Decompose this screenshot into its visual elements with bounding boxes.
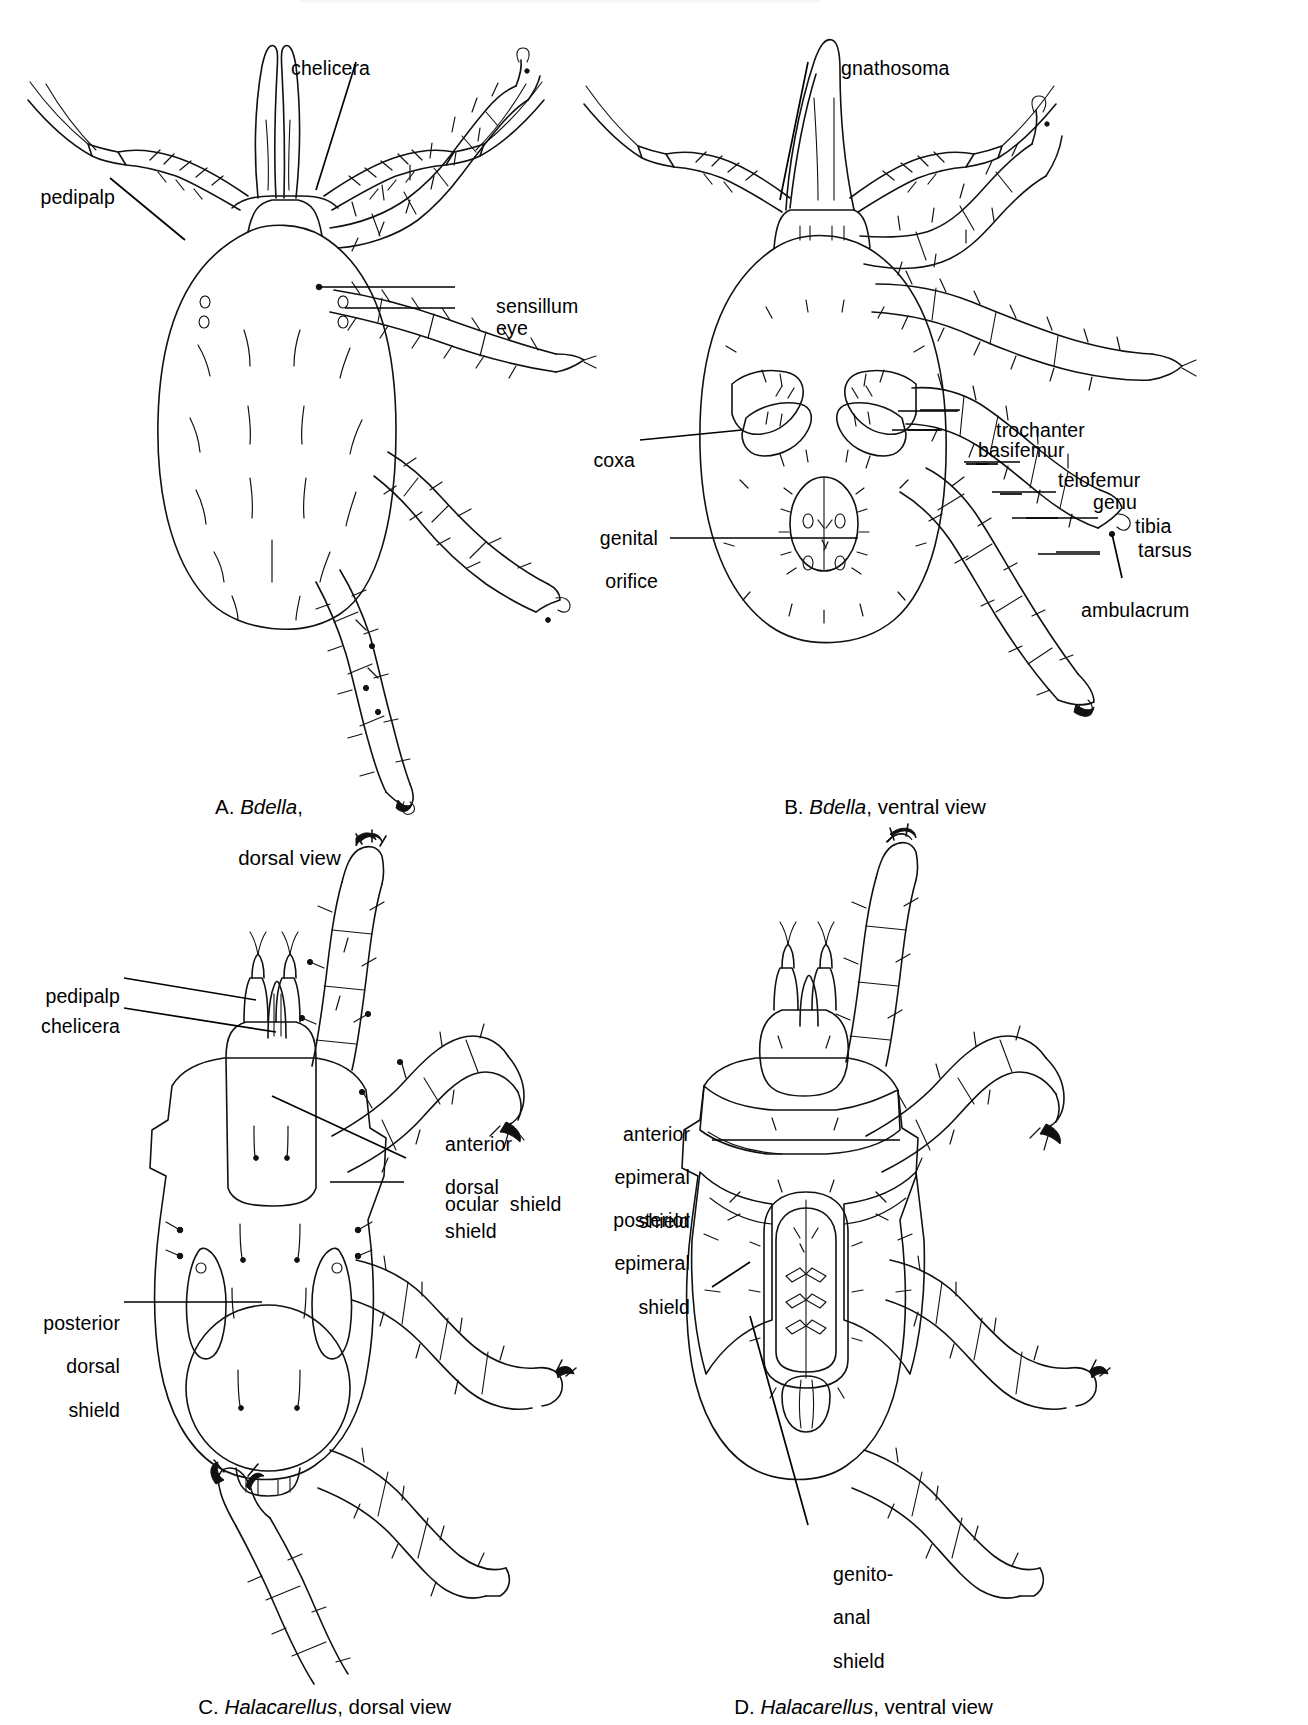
label-ocular-c-text: ocular shield <box>445 1193 561 1215</box>
label-chelicera-a: chelicera <box>200 36 370 101</box>
caption-c-view: , dorsal view <box>337 1695 451 1718</box>
label-posterior-epimeral-shield-d: posterior epimeral shield <box>550 1188 690 1341</box>
label-eye-a-text: eye <box>496 317 528 339</box>
label-ocular-shield-c: ocular shield <box>412 1172 561 1237</box>
label-genital-b-line1: genital <box>600 527 658 549</box>
label-pes-d-line3: shield <box>638 1296 690 1318</box>
caption-d-view: , ventral view <box>873 1695 993 1718</box>
label-pedipalp-a-text: pedipalp <box>40 186 115 208</box>
label-pes-d-line2: epimeral <box>614 1252 690 1274</box>
label-tarsus-b-text: tarsus <box>1138 539 1192 561</box>
caption-panel-c: C. Halacarellus, dorsal view <box>164 1670 451 1725</box>
label-aes-d-line2: epimeral <box>614 1166 690 1188</box>
label-genital-b-line2: orifice <box>605 570 658 592</box>
panel-a-leaders <box>0 0 654 820</box>
caption-c-letter: C. <box>198 1695 224 1718</box>
label-pds-c-line2: dorsal <box>66 1355 120 1377</box>
label-tarsus-b: tarsus <box>1105 518 1192 583</box>
label-genital-orifice-b: genital orifice <box>530 506 658 615</box>
figure-plate: chelicera pedipalp sensillum eye A. Bdel… <box>0 0 1308 1725</box>
label-gnathosoma-b: gnathosoma <box>808 36 949 101</box>
label-pds-c-line3: shield <box>68 1399 120 1421</box>
label-coxa-b: coxa <box>540 428 635 493</box>
label-gas-d-line2: anal <box>833 1606 870 1628</box>
label-ambulacrum-b-text: ambulacrum <box>1081 599 1189 621</box>
panel-b-leaders-2 <box>560 0 1308 820</box>
label-eye-a: eye <box>463 296 528 361</box>
label-pes-d-line1: posterior <box>613 1209 690 1231</box>
label-gas-d-line1: genito- <box>833 1563 893 1585</box>
label-aes-d-line1: anterior <box>623 1123 690 1145</box>
panel-a-bdella-dorsal: chelicera pedipalp sensillum eye A. Bdel… <box>0 0 654 820</box>
panel-b-bdella-ventral: gnathosoma trochanter basifemur telofemu… <box>560 0 1308 820</box>
label-chelicera-c: chelicera <box>0 994 120 1059</box>
label-pedipalp-a: pedipalp <box>0 165 115 230</box>
panel-d-halacarellus-ventral: anterior epimeral shield posterior epime… <box>560 800 1308 1725</box>
label-coxa-b-text: coxa <box>593 449 635 471</box>
caption-panel-d: D. Halacarellus, ventral view <box>700 1670 993 1725</box>
label-gnathosoma-b-text: gnathosoma <box>841 57 949 79</box>
label-ads-c-line1: anterior <box>445 1133 512 1155</box>
caption-d-letter: D. <box>734 1695 760 1718</box>
label-gas-d-line3: shield <box>833 1650 885 1672</box>
label-ambulacrum-b: ambulacrum <box>1048 578 1189 643</box>
caption-d-taxon: Halacarellus <box>760 1695 873 1718</box>
label-chelicera-a-text: chelicera <box>291 57 370 79</box>
label-pds-c-line1: posterior <box>43 1312 120 1334</box>
caption-c-taxon: Halacarellus <box>224 1695 337 1718</box>
label-chelicera-c-text: chelicera <box>41 1015 120 1037</box>
label-posterior-dorsal-shield-c: posterior dorsal shield <box>0 1291 120 1444</box>
